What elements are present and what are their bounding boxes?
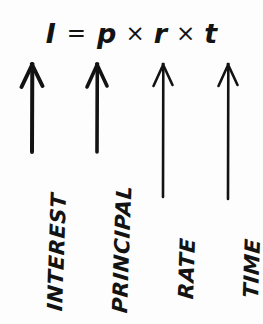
arrow-head-left-barb	[219, 64, 229, 86]
formula-symbol-time: t	[204, 20, 217, 47]
arrow-head-left-barb	[87, 64, 98, 87]
formula-symbol-interest: I	[46, 20, 56, 47]
variable-label-rate: RATE	[176, 237, 199, 300]
formula-diagram: I = p × r × t INTERESTPRINCIPALRATETIME	[0, 0, 263, 324]
arrow-head-right-barb	[228, 64, 238, 85]
variable-label-interest: INTEREST	[45, 192, 70, 312]
arrow-head-right-barb	[97, 64, 107, 86]
arrow-head-left-barb	[22, 64, 33, 87]
variable-label-time: TIME	[241, 238, 263, 300]
formula-expression: I = p × r × t	[0, 13, 263, 53]
arrow-head-left-barb	[154, 64, 164, 86]
formula-symbol-rate: r	[154, 20, 167, 47]
multiply-sign-1: ×	[125, 22, 144, 45]
arrow-head-right-barb	[163, 64, 173, 85]
variable-label-principal: PRINCIPAL	[110, 184, 135, 314]
arrow-head-right-barb	[32, 64, 43, 86]
formula-symbol-principal: p	[97, 20, 116, 47]
equals-sign: =	[67, 22, 86, 45]
multiply-sign-2: ×	[176, 22, 195, 45]
